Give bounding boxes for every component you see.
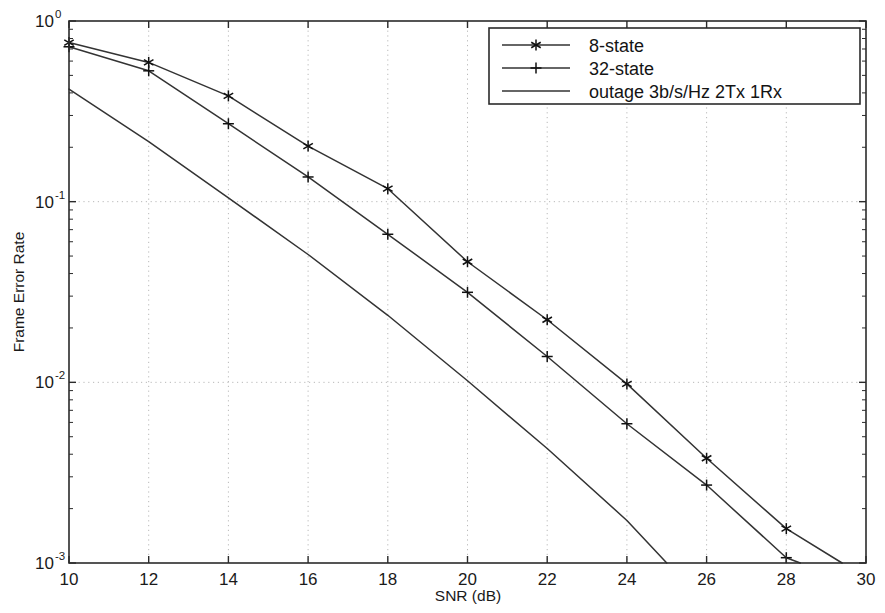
y-tick-label-exponent: 0 <box>55 8 61 20</box>
x-tick-label: 22 <box>538 570 557 589</box>
chart-legend: 8-state32-stateoutage 3b/s/Hz 2Tx 1Rx <box>489 28 860 104</box>
x-tick-label: 26 <box>697 570 716 589</box>
x-axis-title: SNR (dB) <box>435 587 501 604</box>
y-tick-label-mantissa: 10 <box>35 12 54 31</box>
chart-figure: 101214161820222426283010010-110-210-3 Fr… <box>0 0 885 613</box>
y-tick-label-exponent: -3 <box>55 550 65 562</box>
legend-label: outage 3b/s/Hz 2Tx 1Rx <box>589 82 782 102</box>
x-tick-label: 10 <box>60 570 79 589</box>
y-axis-title-group: Frame Error Rate <box>10 232 27 353</box>
y-tick-label-mantissa: 10 <box>35 373 54 392</box>
y-tick-label-mantissa: 10 <box>35 193 54 212</box>
y-tick-label-exponent: -2 <box>55 369 65 381</box>
x-tick-label: 24 <box>617 570 636 589</box>
x-tick-label: 28 <box>777 570 796 589</box>
legend-label: 32-state <box>589 59 654 79</box>
y-axis-title: Frame Error Rate <box>10 232 27 353</box>
legend-label: 8-state <box>589 36 644 56</box>
y-tick-label-exponent: -1 <box>55 189 65 201</box>
x-tick-label: 14 <box>219 570 238 589</box>
x-tick-label: 12 <box>139 570 158 589</box>
x-tick-label: 16 <box>299 570 318 589</box>
x-tick-label: 18 <box>378 570 397 589</box>
y-tick-label-mantissa: 10 <box>35 554 54 573</box>
x-tick-label: 30 <box>857 570 876 589</box>
frame-error-rate-plot: 101214161820222426283010010-110-210-3 Fr… <box>0 0 885 613</box>
